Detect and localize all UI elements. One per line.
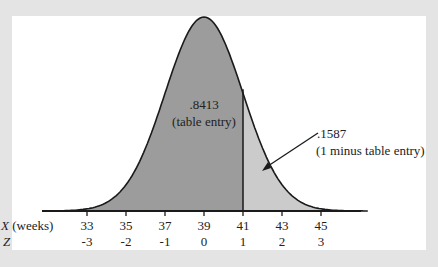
z-axis-label: Z — [3, 234, 11, 249]
x-tick-label: 41 — [237, 218, 250, 233]
z-tick-label: 2 — [279, 234, 286, 249]
x-tick-label: 33 — [81, 218, 94, 233]
left-region-note: (table entry) — [172, 114, 236, 129]
right-region-value: .1587 — [317, 126, 347, 141]
z-tick-label: -1 — [160, 234, 171, 249]
z-tick-label: 3 — [318, 234, 325, 249]
normal-curve-chart: 33-335-237-1390411432453 X (weeks) Z .84… — [0, 0, 438, 267]
z-tick-label: -3 — [82, 234, 93, 249]
z-tick-label: 0 — [201, 234, 208, 249]
x-tick-label: 37 — [159, 218, 173, 233]
z-tick-label: 1 — [240, 234, 247, 249]
x-tick-label: 43 — [276, 218, 289, 233]
annotation-arrow — [265, 133, 318, 168]
x-tick-label: 39 — [198, 218, 211, 233]
x-axis-label: X (weeks) — [0, 218, 53, 233]
left-region-value: .8413 — [189, 97, 218, 112]
x-tick-label: 35 — [120, 218, 133, 233]
right-region-note: (1 minus table entry) — [316, 143, 425, 158]
x-tick-label: 45 — [315, 218, 328, 233]
z-tick-label: -2 — [121, 234, 132, 249]
